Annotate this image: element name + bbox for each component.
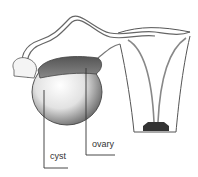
ovary-label: ovary xyxy=(92,140,114,149)
fimbriae xyxy=(13,58,37,78)
ovarian-ligament xyxy=(98,44,120,58)
cervix xyxy=(143,122,169,131)
cyst-label: cyst xyxy=(50,152,66,161)
uterus xyxy=(118,28,190,132)
anatomy-illustration xyxy=(0,0,198,177)
